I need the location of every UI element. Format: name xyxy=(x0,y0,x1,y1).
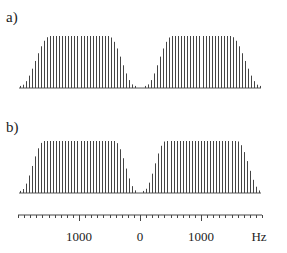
axis-ticks xyxy=(19,215,263,221)
panel-b-spectrum xyxy=(19,141,261,193)
axis-tick-labels: 100001000 xyxy=(66,229,214,244)
spectrum-figure: a) b) 100001000 Hz xyxy=(0,0,287,253)
frequency-axis: 100001000 Hz xyxy=(18,215,267,244)
tick-label: 1000 xyxy=(188,229,214,244)
panel-a-label: a) xyxy=(6,9,18,26)
panel-b-label: b) xyxy=(6,119,19,136)
panel-a-spectrum xyxy=(19,36,261,88)
tick-label: 1000 xyxy=(66,229,92,244)
axis-unit-label: Hz xyxy=(251,229,266,244)
tick-label: 0 xyxy=(137,229,144,244)
